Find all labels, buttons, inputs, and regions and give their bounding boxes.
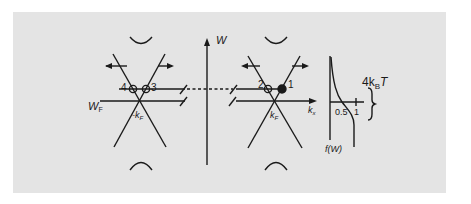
point-2-label: 2 xyxy=(258,79,264,90)
right-lower-band xyxy=(265,163,287,171)
tick-one-label: 1 xyxy=(354,107,359,117)
left-upper-band xyxy=(130,37,152,44)
kf-label: kF xyxy=(270,110,279,121)
thermal-width-label: 4kBT xyxy=(362,75,389,91)
fermi-energy-label: WF xyxy=(88,100,103,113)
state-1-circle xyxy=(278,85,286,93)
right-upper-band xyxy=(265,37,287,44)
energy-axis-label: W xyxy=(216,34,228,46)
tick-half-label: 0.5 xyxy=(335,107,348,117)
point-3-label: 3 xyxy=(151,82,157,93)
neg-kf-label: -kF xyxy=(132,110,144,121)
left-lower-band xyxy=(130,163,152,171)
point-1-label: 1 xyxy=(288,79,294,90)
thermal-brace xyxy=(368,88,375,120)
fermi-function-label: f(W) xyxy=(325,144,342,154)
kx-axis-label: kx xyxy=(308,105,317,116)
point-4-label: 4 xyxy=(121,82,127,93)
band-diagram: W WF -kF kF kx 4 3 2 1 0.5 1 f(W) 4kBT xyxy=(0,0,471,204)
